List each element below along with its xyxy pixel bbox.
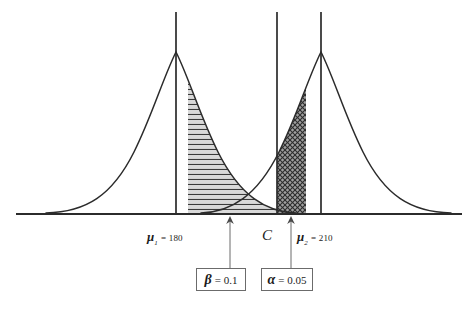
statistics-figure: μ1 = 180 C μ2 = 210 β = 0.1 α = 0.05 [0,0,476,309]
null-distribution-curve [46,52,296,213]
alpha-leader-line [287,216,295,268]
beta-region-shading [46,52,296,214]
figure-canvas [0,0,476,309]
beta-leader-line [226,216,234,268]
